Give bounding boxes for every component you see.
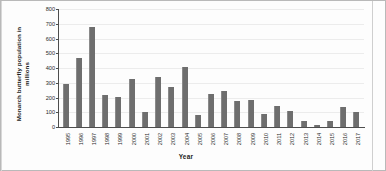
x-tick-slot: 1996 [72,129,85,155]
bar[interactable] [102,95,108,127]
bar-series [58,9,364,127]
bar-slot [257,9,270,127]
bar-slot [59,9,72,127]
chart-figure: Monarch butterfly population in millions… [0,0,386,171]
y-tick-label: 200 [46,95,55,101]
y-tick-mark [56,98,58,99]
bar[interactable] [314,125,320,128]
y-axis-title-line-1: Monarch butterfly population in [15,27,23,121]
bar[interactable] [155,77,161,127]
x-tick-label: 2014 [316,133,322,145]
bar-slot [85,9,98,127]
x-tick-slot: 2005 [191,129,204,155]
x-axis-title: Year [1,153,371,160]
bar[interactable] [287,111,293,127]
x-tick-slot: 1999 [112,129,125,155]
bar[interactable] [221,91,227,127]
bar[interactable] [208,94,214,127]
x-tick-slot: 2003 [165,129,178,155]
y-tick-mark [56,112,58,113]
y-tick-mark [56,9,58,10]
bar[interactable] [301,121,307,127]
x-tick-label: 1996 [78,133,84,145]
x-tick-slot: 2004 [178,129,191,155]
bar[interactable] [142,112,148,127]
x-tick-label: 2004 [184,133,190,145]
y-tick-mark [56,53,58,54]
bar-slot [152,9,165,127]
x-tick-label: 2009 [250,133,256,145]
x-tick-label: 2007 [223,133,229,145]
y-tick-label: 600 [46,36,55,42]
x-tick-label: 2010 [263,133,269,145]
x-tick-slot: 2009 [244,129,257,155]
y-axis-title-line-2: millions [23,27,31,121]
y-axis-title: Monarch butterfly population in millions [12,11,34,137]
bar[interactable] [248,100,254,127]
bar[interactable] [129,79,135,127]
bar-slot [231,9,244,127]
x-tick-slot: 1995 [59,129,72,155]
y-tick-mark [56,127,58,128]
bar-slot [112,9,125,127]
bar-slot [165,9,178,127]
bar[interactable] [76,58,82,127]
bar-slot [310,9,323,127]
bar[interactable] [274,106,280,127]
bar-slot [178,9,191,127]
bar-slot [218,9,231,127]
bar[interactable] [340,107,346,127]
bar-slot [297,9,310,127]
bar[interactable] [353,112,359,127]
x-tick-label: 2017 [355,133,361,145]
bar[interactable] [89,27,95,127]
y-tick-mark [56,39,58,40]
x-tick-slot: 1998 [99,129,112,155]
bar-slot [204,9,217,127]
x-tick-slot: 2011 [271,129,284,155]
x-tick-slot: 2006 [204,129,217,155]
bar-slot [337,9,350,127]
x-tick-label: 2006 [210,133,216,145]
x-tick-slot: 2016 [337,129,350,155]
x-tick-label: 2005 [197,133,203,145]
figure-right-rule [372,1,373,171]
x-tick-slot: 2000 [125,129,138,155]
y-tick-mark [56,83,58,84]
x-tick-label: 1999 [117,133,123,145]
x-tick-label: 2011 [276,133,282,145]
y-tick-mark [56,24,58,25]
x-tick-label: 2015 [329,133,335,145]
bar[interactable] [195,115,201,127]
y-tick-label: 400 [46,65,55,71]
bar[interactable] [261,114,267,127]
x-tick-label: 2002 [157,133,163,145]
y-tick-label: 300 [46,80,55,86]
x-tick-slot: 2014 [310,129,323,155]
y-tick-label: 500 [46,50,55,56]
x-tick-slot: 2007 [218,129,231,155]
x-tick-label: 2001 [144,133,150,145]
bar[interactable] [327,121,333,127]
bar-slot [72,9,85,127]
bar[interactable] [115,97,121,127]
x-tick-slot: 1997 [85,129,98,155]
x-tick-slot: 2015 [323,129,336,155]
x-tick-slot: 2002 [152,129,165,155]
y-tick-label: 700 [46,21,55,27]
bar[interactable] [234,101,240,127]
bar[interactable] [63,84,69,127]
bar[interactable] [168,87,174,127]
y-tick-label: 800 [46,6,55,12]
x-tick-label: 2008 [236,133,242,145]
x-tick-label: 2003 [170,133,176,145]
bar-slot [125,9,138,127]
bar-slot [350,9,363,127]
plot-area: 0100200300400500600700800 [58,9,364,127]
x-tick-slot: 2008 [231,129,244,155]
figure-left-rule [1,1,2,171]
x-tick-label: 2016 [342,133,348,145]
bar[interactable] [182,67,188,127]
y-tick-label: 100 [46,109,55,115]
bar-slot [271,9,284,127]
